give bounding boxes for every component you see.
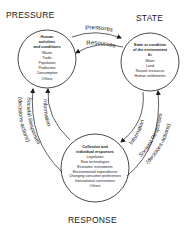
- state-title: STATE: [136, 13, 163, 23]
- circle-heading: Human: [41, 35, 55, 39]
- circle-heading: activities: [39, 40, 55, 44]
- circle-item: Population: [39, 61, 56, 65]
- pressures-arrow: [72, 33, 121, 38]
- circle-item: Consumption: [36, 71, 57, 75]
- circle-item: Changing consumer preferences: [69, 174, 121, 178]
- circle-item: Water: [145, 59, 155, 63]
- svg-text:Resources: Resources: [86, 39, 116, 49]
- circle-item: Economic instruments: [77, 165, 113, 169]
- resources-label: Resources: [86, 39, 116, 49]
- circle-item: Environmental expenditures: [73, 170, 118, 174]
- resources-arrow: [76, 45, 123, 53]
- info-right-arrow: [121, 92, 143, 142]
- circle-item: Natural resources: [136, 69, 165, 73]
- circle-item: New technologies: [81, 160, 110, 164]
- circle-heading: and conditions: [34, 45, 61, 49]
- circle-item: Waste: [42, 51, 52, 55]
- pressures-label: Pressures: [85, 24, 114, 32]
- svg-text:Pressures: Pressures: [85, 24, 114, 32]
- response-title: RESPONSE: [68, 215, 117, 225]
- circle-heading: State or condition: [134, 43, 167, 47]
- circle-item: Trade: [42, 56, 51, 60]
- circle-heading: Collective and: [82, 145, 108, 149]
- circle-item: Production: [38, 66, 55, 70]
- circle-heading: individual responses: [76, 150, 114, 154]
- circle-item: International conventions: [75, 179, 115, 183]
- circle-item: Others: [90, 184, 101, 188]
- circle-heading: of the environment: [133, 48, 168, 52]
- circle-item: Legislation: [86, 155, 103, 159]
- pressure-title: PRESSURE: [6, 10, 54, 20]
- info-left-arrow: [48, 89, 70, 140]
- psr-diagram: PRESSURE STATE RESPONSE Pressures Resour…: [0, 0, 190, 229]
- circle-item: Human settlements: [135, 74, 166, 78]
- circle-item: Others: [42, 77, 53, 81]
- circle-item: Land: [146, 64, 154, 68]
